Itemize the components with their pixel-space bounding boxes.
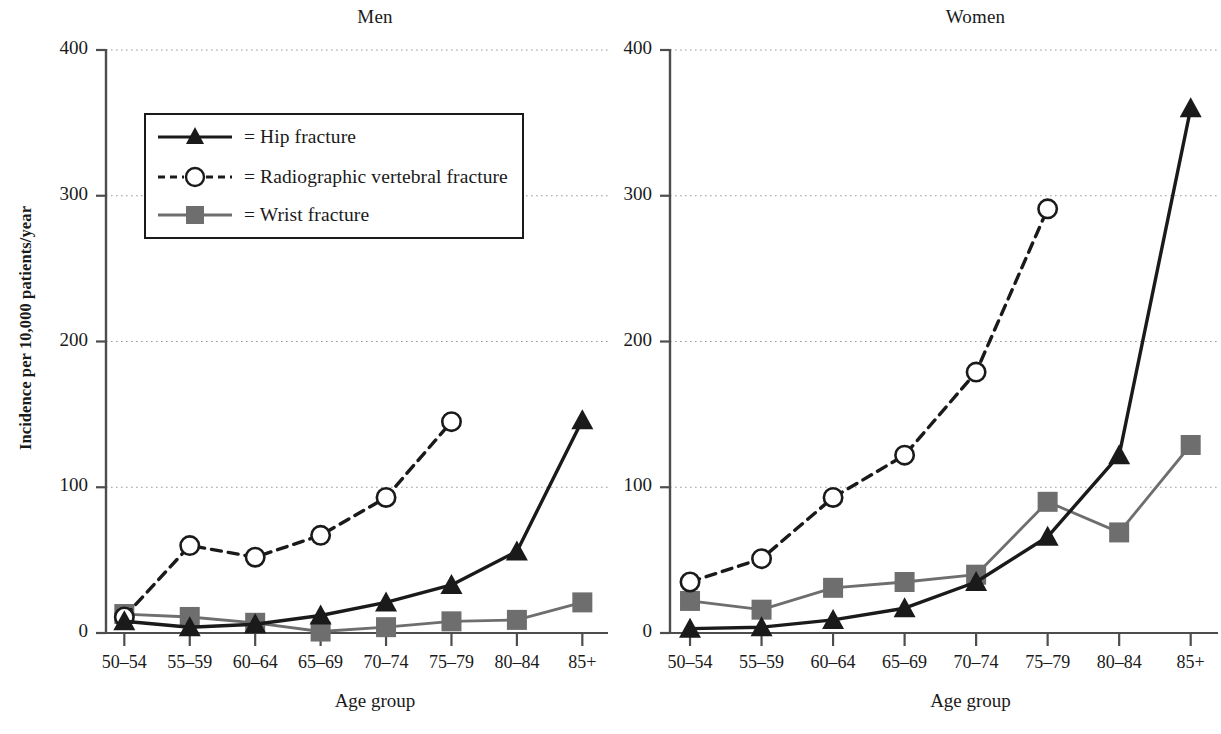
panel-men: Men Incidence per 10,000 patients/year A… bbox=[0, 0, 610, 734]
data-point-marker bbox=[1038, 492, 1058, 512]
data-point-marker bbox=[680, 591, 700, 611]
data-point-marker bbox=[441, 611, 461, 631]
fracture-incidence-figure: Men Incidence per 10,000 patients/year A… bbox=[0, 0, 1221, 734]
legend-label-hip: = Hip fracture bbox=[234, 126, 356, 148]
vertebral-fracture-symbol-icon bbox=[156, 162, 234, 192]
series-line bbox=[124, 420, 582, 627]
data-point-marker bbox=[895, 572, 915, 592]
series-line bbox=[124, 422, 451, 617]
data-point-marker bbox=[967, 363, 985, 381]
legend-label-vertebral: = Radiographic vertebral fracture bbox=[234, 166, 508, 188]
data-point-marker bbox=[442, 412, 460, 430]
hip-fracture-symbol-icon bbox=[156, 122, 234, 152]
data-point-marker bbox=[895, 446, 913, 464]
data-point-marker bbox=[246, 548, 264, 566]
plot-area-men bbox=[0, 0, 610, 734]
data-point-marker bbox=[506, 540, 528, 560]
y-tick-label: 0 bbox=[32, 620, 88, 642]
data-point-marker bbox=[894, 597, 916, 617]
x-tick-label: 85+ bbox=[1151, 652, 1221, 673]
series-line bbox=[690, 209, 1048, 582]
plot-area-women bbox=[610, 0, 1221, 734]
wrist-fracture-symbol-icon bbox=[156, 200, 234, 230]
y-tick-label: 300 bbox=[32, 183, 88, 205]
x-tick-label: 55–59 bbox=[722, 652, 802, 673]
y-tick-label: 100 bbox=[32, 474, 88, 496]
data-point-marker bbox=[824, 488, 842, 506]
legend-label-wrist: = Wrist fracture bbox=[234, 204, 369, 226]
data-point-marker bbox=[376, 617, 396, 637]
data-point-marker bbox=[572, 592, 592, 612]
data-point-marker bbox=[311, 526, 329, 544]
y-tick-label: 300 bbox=[596, 183, 652, 205]
data-point-marker bbox=[181, 536, 199, 554]
data-point-marker bbox=[1108, 444, 1130, 464]
x-tick-label: 80–84 bbox=[1079, 652, 1159, 673]
data-point-marker bbox=[507, 610, 527, 630]
legend-item-vertebral: = Radiographic vertebral fracture bbox=[156, 157, 508, 197]
data-point-marker bbox=[377, 488, 395, 506]
data-point-marker bbox=[681, 573, 699, 591]
x-tick-label: 65–69 bbox=[865, 652, 945, 673]
data-point-marker bbox=[571, 409, 593, 429]
x-tick-label: 50–54 bbox=[650, 652, 730, 673]
x-tick-label: 70–74 bbox=[936, 652, 1016, 673]
data-point-marker bbox=[440, 574, 462, 594]
data-point-marker bbox=[1181, 435, 1201, 455]
data-point-marker bbox=[1180, 97, 1202, 117]
y-tick-label: 400 bbox=[32, 37, 88, 59]
y-tick-label: 100 bbox=[596, 474, 652, 496]
legend-item-hip: = Hip fracture bbox=[156, 117, 356, 157]
data-point-marker bbox=[823, 578, 843, 598]
legend: = Hip fracture = Radiographic vertebral … bbox=[144, 113, 524, 239]
y-tick-label: 0 bbox=[596, 620, 652, 642]
y-tick-label: 200 bbox=[596, 329, 652, 351]
legend-item-wrist: = Wrist fracture bbox=[156, 195, 369, 235]
x-tick-label: 75–79 bbox=[1008, 652, 1088, 673]
data-point-marker bbox=[311, 622, 331, 642]
y-tick-label: 200 bbox=[32, 329, 88, 351]
y-tick-label: 400 bbox=[596, 37, 652, 59]
panel-women: Women Age group 010020030040050–5455–596… bbox=[610, 0, 1221, 734]
data-point-marker bbox=[1038, 200, 1056, 218]
x-tick-label: 60–64 bbox=[793, 652, 873, 673]
data-point-marker bbox=[752, 549, 770, 567]
data-point-marker bbox=[1109, 522, 1129, 542]
